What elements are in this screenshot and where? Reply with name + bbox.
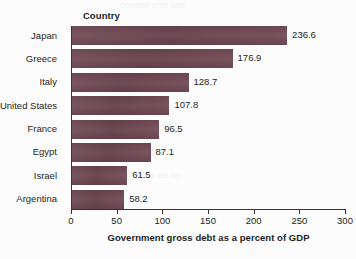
bar-row: Japan236.6 [71, 26, 345, 45]
bar-row: Israel61.5 [71, 166, 345, 185]
x-axis-tick [345, 210, 346, 214]
category-label: Italy [0, 76, 57, 87]
category-label: Argentina [0, 193, 57, 204]
category-label: France [0, 123, 57, 134]
category-label: Egypt [0, 146, 57, 157]
bar-chart-figure: ceeeen erre cee a ee ne Country Japan236… [0, 0, 356, 259]
x-axis-tick-label: 200 [246, 215, 262, 226]
bar-france [71, 120, 159, 139]
bar-row: Greece176.9 [71, 49, 345, 68]
bar-japan [71, 26, 287, 45]
value-axis-origin-line [71, 26, 72, 210]
bar-value-label: 96.5 [164, 123, 183, 134]
bar-value-label: 128.7 [194, 76, 218, 87]
bar-value-label: 58.2 [129, 193, 148, 204]
category-label: Israel [0, 170, 57, 181]
bar-value-label: 87.1 [156, 146, 175, 157]
category-label: Japan [0, 30, 57, 41]
x-axis-tick-label: 150 [200, 215, 216, 226]
bar-israel [71, 166, 127, 185]
x-axis-tick-label: 250 [291, 215, 307, 226]
bar-value-label: 107.8 [174, 99, 198, 110]
x-axis-tick-label: 100 [154, 215, 170, 226]
category-label: Greece [0, 53, 57, 64]
bar-row: France96.5 [71, 120, 345, 139]
bar-greece [71, 49, 233, 68]
plot-area: Japan236.6Greece176.9Italy128.7United St… [71, 26, 345, 209]
bar-value-label: 236.6 [292, 29, 316, 40]
x-axis-tick-label: 50 [111, 215, 122, 226]
bar-row: Italy128.7 [71, 73, 345, 92]
x-axis-tick-label: 0 [68, 215, 73, 226]
bar-value-label: 176.9 [238, 52, 262, 63]
x-axis-tick [162, 210, 163, 214]
x-axis-tick [71, 210, 72, 214]
bar-row: United States107.8 [71, 96, 345, 115]
value-axis-title: Government gross debt as a percent of GD… [71, 232, 346, 243]
x-axis-tick [117, 210, 118, 214]
bar-value-label: 61.5 [132, 169, 151, 180]
bar-argentina [71, 190, 124, 209]
bar-row: Argentina58.2 [71, 190, 345, 209]
x-axis-tick [254, 210, 255, 214]
category-axis-title: Country [0, 10, 120, 21]
page-bleed-through-top: ceeeen erre cee [120, 0, 185, 10]
bar-united-states [71, 96, 169, 115]
bar-row: Egypt87.1 [71, 143, 345, 162]
x-axis-tick [299, 210, 300, 214]
category-label: United States [0, 100, 57, 111]
bar-italy [71, 73, 189, 92]
bar-egypt [71, 143, 151, 162]
x-axis-tick [208, 210, 209, 214]
x-axis-tick-label: 300 [337, 215, 353, 226]
